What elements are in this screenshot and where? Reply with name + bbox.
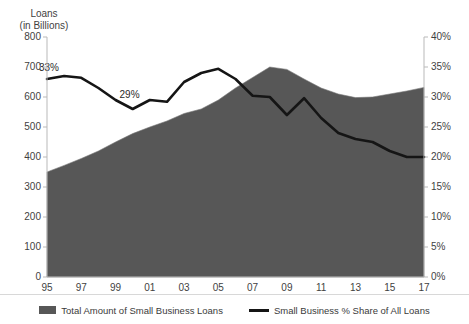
line-swatch-icon [249, 309, 269, 312]
chart-container: Loans (in Billions) 80070060050040030020… [0, 0, 469, 324]
legend-label-total-loans: Total Amount of Small Business Loans [61, 305, 223, 316]
area-series-small-business-loans [47, 67, 424, 277]
legend-label-percent-share: Small Business % Share of All Loans [274, 305, 430, 316]
legend-divider [0, 294, 469, 295]
plot-area [0, 0, 469, 324]
area-swatch-icon [39, 306, 56, 314]
chart-legend: Total Amount of Small Business Loans Sma… [0, 301, 469, 319]
legend-item-total-loans: Total Amount of Small Business Loans [39, 305, 223, 316]
legend-item-percent-share: Small Business % Share of All Loans [249, 305, 430, 316]
